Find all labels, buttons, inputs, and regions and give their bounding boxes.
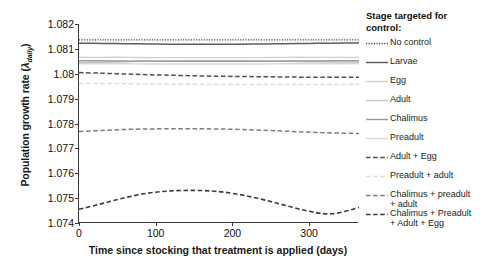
series-line (79, 61, 359, 62)
legend-line-swatch (366, 38, 388, 49)
series-line (79, 129, 359, 134)
legend-line-swatch (366, 171, 388, 182)
legend-item[interactable]: Adult (366, 93, 484, 112)
legend-item-label: No control (390, 36, 431, 47)
x-tick-label: 0 (76, 227, 82, 239)
legend-item-label: Larvae (390, 55, 418, 66)
legend-item-label: Adult (390, 93, 411, 104)
legend-item-label: Preadult + adult (390, 169, 453, 180)
chart-root: Population growth rate (λdaily) 1.0741.0… (0, 0, 484, 270)
series-line (79, 73, 359, 78)
y-tick-label: 1.079 (48, 93, 74, 105)
legend-line-swatch (366, 57, 388, 68)
legend-item-label: Egg (390, 74, 406, 85)
series-line (79, 64, 359, 65)
legend-item[interactable]: Chalimus (366, 112, 484, 131)
legend-line-swatch (366, 95, 388, 106)
legend-line-swatch (366, 133, 388, 144)
legend-item[interactable]: Preadult + adult (366, 169, 484, 188)
series-line (79, 43, 359, 44)
x-tick-label: 300 (300, 227, 318, 239)
series-lines (79, 24, 359, 223)
legend-item-label: Chalimus + preadult + adult (390, 188, 470, 209)
legend-line-swatch (366, 76, 388, 87)
y-axis-lambda-subscript: daily (26, 47, 33, 62)
legend-item-label: Adult + Egg (390, 150, 437, 161)
legend-item[interactable]: Chalimus + Preadult + Adult + Egg (366, 207, 484, 226)
y-tick-label: 1.078 (48, 118, 74, 130)
legend-item[interactable]: Adult + Egg (366, 150, 484, 169)
legend-line-swatch (366, 209, 388, 220)
y-axis-title-close: ) (19, 44, 31, 47)
chart-legend: Stage targeted for control: No controlLa… (366, 10, 484, 226)
y-tick-label: 1.076 (48, 167, 74, 179)
legend-items: No controlLarvaeEggAdultChalimusPreadult… (366, 36, 484, 226)
plot-area: 1.0741.0751.0761.0771.0781.0791.081.0811… (78, 24, 358, 223)
legend-line-swatch (366, 152, 388, 163)
y-tick-label: 1.08 (54, 68, 74, 80)
legend-item[interactable]: Larvae (366, 55, 484, 74)
y-tick-label: 1.075 (48, 192, 74, 204)
y-tick-label: 1.074 (48, 217, 74, 229)
series-line (79, 190, 359, 214)
y-axis-title-text: Population growth rate ( (19, 68, 31, 186)
x-tick-label: 100 (147, 227, 165, 239)
x-tick-label: 200 (224, 227, 242, 239)
legend-item[interactable]: Chalimus + preadult + adult (366, 188, 484, 207)
series-line (79, 83, 359, 84)
x-axis-title: Time since stocking that treatment is ap… (78, 244, 358, 256)
legend-item-label: Preadult (390, 131, 424, 142)
legend-item-label: Chalimus (390, 112, 428, 123)
y-tick-label: 1.077 (48, 142, 74, 154)
legend-title: Stage targeted for control: (366, 10, 478, 33)
y-axis-lambda-symbol: λ (19, 62, 31, 68)
legend-item[interactable]: No control (366, 36, 484, 55)
legend-item[interactable]: Egg (366, 74, 484, 93)
legend-line-swatch (366, 114, 388, 125)
legend-item-label: Chalimus + Preadult + Adult + Egg (390, 207, 471, 228)
y-tick-label: 1.081 (48, 43, 74, 55)
y-tick-label: 1.082 (48, 18, 74, 30)
y-axis-title: Population growth rate (λdaily) (19, 15, 33, 215)
legend-line-swatch (366, 190, 388, 201)
legend-item[interactable]: Preadult (366, 131, 484, 150)
